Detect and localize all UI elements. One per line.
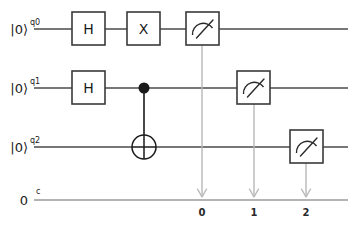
- gate-x-q0[interactable]: X: [127, 12, 160, 45]
- measurement-drop-lines: [198, 45, 311, 197]
- measure-gate-q2[interactable]: [290, 130, 323, 163]
- gate-h-q0[interactable]: H: [72, 12, 105, 45]
- cnot-control-dot[interactable]: [139, 83, 150, 94]
- register-label-q2-name: q2: [30, 136, 40, 145]
- register-label-q0-ket: |0⟩: [10, 22, 28, 37]
- register-label-q0-name: q0: [30, 18, 40, 27]
- clbit-label-1: 1: [251, 207, 258, 218]
- classical-register-index: 0: [20, 193, 28, 208]
- measure-gate-q2-box[interactable]: [290, 130, 323, 163]
- measure-gate-q0-box[interactable]: [186, 12, 219, 45]
- clbit-label-0: 0: [199, 207, 206, 218]
- measure-gate-q1-box[interactable]: [237, 71, 270, 104]
- measure-gate-q0[interactable]: [186, 12, 219, 45]
- classical-register-name: c: [36, 187, 40, 196]
- cnot-gate[interactable]: [132, 83, 156, 160]
- measure-gate-q1[interactable]: [237, 71, 270, 104]
- circuit-canvas: |0⟩ q0 |0⟩ q1 |0⟩ q2 0 c: [0, 0, 361, 228]
- gate-h-q1-label: H: [83, 80, 94, 96]
- gate-h-q0-label: H: [83, 21, 94, 37]
- gate-h-q1[interactable]: H: [72, 71, 105, 104]
- register-label-q2-ket: |0⟩: [10, 140, 28, 155]
- classical-bit-labels: 0 1 2: [199, 207, 310, 218]
- gate-x-q0-label: X: [139, 21, 149, 37]
- clbit-label-2: 2: [303, 207, 310, 218]
- register-labels: |0⟩ q0 |0⟩ q1 |0⟩ q2 0 c: [10, 18, 40, 208]
- register-label-q1-ket: |0⟩: [10, 81, 28, 96]
- quantum-circuit-diagram: |0⟩ q0 |0⟩ q1 |0⟩ q2 0 c: [0, 0, 361, 228]
- register-label-q1-name: q1: [30, 77, 40, 86]
